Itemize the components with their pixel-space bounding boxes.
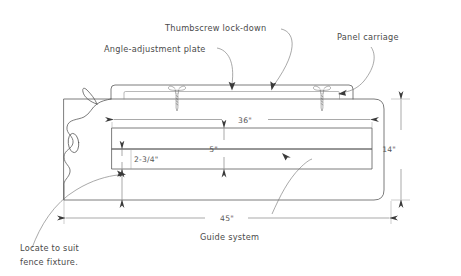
label-thumbscrew-lockdown: Thumbscrew lock-down xyxy=(164,23,266,33)
label-panel-carriage: Panel carriage xyxy=(337,32,399,42)
leader-locate-fence xyxy=(32,171,126,248)
label-locate-fence-line2: fence fixture. xyxy=(20,257,78,267)
leader-angle-plate xyxy=(217,48,235,91)
label-angle-adjustment-plate: Angle-adjustment plate xyxy=(104,44,206,54)
dimension-14-label: 14" xyxy=(382,145,396,154)
panel-carriage-rail xyxy=(124,92,340,100)
dimension-45-label: 45" xyxy=(220,214,234,223)
leader-thumbscrew xyxy=(270,29,292,91)
thumbscrew-icon-left xyxy=(168,86,185,111)
fence-fixture-profile xyxy=(64,88,111,200)
label-guide-system: Guide system xyxy=(200,232,259,242)
dimension-36-label: 36" xyxy=(238,116,252,125)
leader-guide-system xyxy=(272,153,312,214)
thumbscrew-icon-right xyxy=(313,86,330,111)
label-locate-fence-line1: Locate to suit xyxy=(20,243,80,253)
dimension-5: 5" xyxy=(209,129,224,169)
dimension-5-label: 5" xyxy=(209,145,218,154)
drawing-svg: 36" 5" 2-3/4" 14" xyxy=(0,0,461,276)
dimension-36: 36" xyxy=(112,116,372,129)
dimension-2-3-4: 2-3/4" xyxy=(122,149,159,169)
technical-drawing-canvas: 36" 5" 2-3/4" 14" xyxy=(0,0,461,276)
dimension-2-3-4-label: 2-3/4" xyxy=(134,155,159,164)
dimension-45: 45" xyxy=(64,201,391,224)
leader-panel-carriage xyxy=(338,47,374,96)
dimension-14: 14" xyxy=(382,99,410,200)
